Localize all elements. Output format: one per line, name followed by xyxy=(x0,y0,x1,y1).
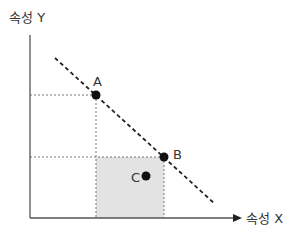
diagram: 속성 Y 속성 X A B C xyxy=(0,0,298,241)
point-a xyxy=(92,91,101,100)
y-axis-label: 속성 Y xyxy=(9,11,45,24)
x-axis-label: 속성 X xyxy=(246,212,283,225)
point-b-label: B xyxy=(173,148,182,161)
point-c-label: C xyxy=(131,171,140,184)
x-axis-arrow-icon xyxy=(233,214,242,222)
shaded-region xyxy=(96,157,164,218)
diagram-canvas xyxy=(0,0,298,241)
point-b xyxy=(160,153,169,162)
point-c xyxy=(142,172,151,181)
point-a-label: A xyxy=(93,75,102,88)
